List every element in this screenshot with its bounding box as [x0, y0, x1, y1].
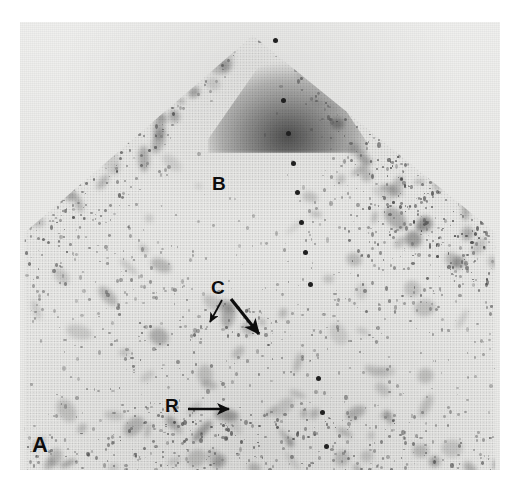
depth-marker-dot	[291, 161, 296, 166]
panel-label: A	[32, 434, 48, 456]
ultrasound-sector-field	[20, 22, 500, 470]
depth-marker-dot	[324, 444, 329, 449]
depth-marker-dot	[316, 376, 321, 381]
ultrasound-figure: B C R A	[0, 0, 526, 488]
depth-marker-dot	[273, 38, 278, 43]
label-bladder: B	[212, 174, 226, 193]
label-cervix: C	[211, 278, 225, 297]
depth-marker-dot	[295, 190, 300, 195]
depth-marker-dot	[281, 98, 286, 103]
label-rectum: R	[165, 396, 179, 415]
depth-marker-dot	[308, 282, 313, 287]
depth-marker-dot	[286, 131, 291, 136]
depth-marker-dot	[299, 220, 304, 225]
depth-marker-dot	[320, 410, 325, 415]
photographic-plate	[20, 22, 500, 470]
depth-marker-dot	[303, 250, 308, 255]
